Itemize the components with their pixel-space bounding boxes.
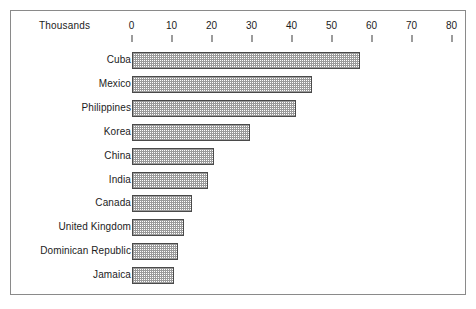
bar-philippines (132, 100, 296, 117)
category-label-china: China (104, 150, 131, 161)
category-label-philippines: Philippines (82, 102, 131, 113)
bar-row: Philippines (11, 100, 467, 117)
bar-china (132, 148, 214, 165)
bar-row: Korea (11, 124, 467, 141)
category-label-cuba: Cuba (107, 54, 131, 65)
bar-jamaica (132, 267, 174, 284)
category-label-dominican-republic: Dominican Republic (40, 245, 131, 256)
category-label-canada: Canada (95, 197, 131, 208)
category-label-mexico: Mexico (99, 78, 131, 89)
bar-row: India (11, 172, 467, 189)
category-label-india: India (109, 174, 131, 185)
bar-dominican-republic (132, 243, 178, 260)
bar-row: Mexico (11, 76, 467, 93)
chart-frame: Thousands 01020304050607080 CubaMexicoPh… (10, 10, 466, 295)
bar-row: Cuba (11, 52, 467, 69)
bar-row: China (11, 148, 467, 165)
bar-united-kingdom (132, 219, 184, 236)
category-label-korea: Korea (104, 126, 131, 137)
bar-row: Dominican Republic (11, 243, 467, 260)
bar-row: Canada (11, 195, 467, 212)
bar-row: United Kingdom (11, 219, 467, 236)
plot-area: CubaMexicoPhilippinesKoreaChinaIndiaCana… (11, 11, 467, 296)
bar-row: Jamaica (11, 267, 467, 284)
bar-mexico (132, 76, 312, 93)
bar-korea (132, 124, 250, 141)
category-label-jamaica: Jamaica (93, 269, 131, 280)
bar-canada (132, 195, 192, 212)
category-label-united-kingdom: United Kingdom (58, 221, 131, 232)
bar-cuba (132, 52, 360, 69)
bar-india (132, 172, 208, 189)
